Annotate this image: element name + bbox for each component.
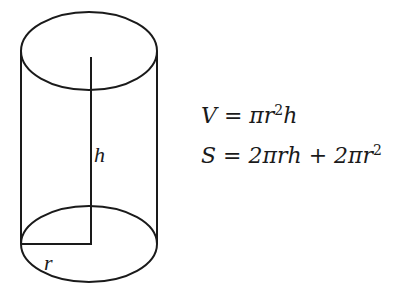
volume-symbol: V xyxy=(201,103,217,128)
height-label: h xyxy=(94,142,105,167)
equals: = xyxy=(217,103,249,128)
radius-label: r xyxy=(44,250,53,275)
surface-symbol: S xyxy=(201,143,216,168)
exponent: 2 xyxy=(274,102,283,118)
volume-rhs-h: h xyxy=(283,103,297,128)
exponent: 2 xyxy=(373,142,382,158)
surface-formula: S = 2πrh + 2πr2 xyxy=(201,142,382,168)
top-face xyxy=(21,12,157,90)
equals: = xyxy=(216,143,248,168)
surface-rhs: 2πrh + 2πr xyxy=(249,143,374,168)
volume-rhs: πr xyxy=(249,103,274,128)
volume-formula: V = πr2h xyxy=(201,102,297,128)
